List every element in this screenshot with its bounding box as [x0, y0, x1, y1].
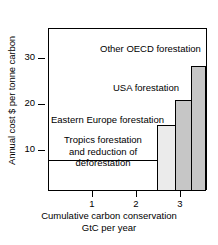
x-axis-title-line1: Cumulative carbon conservation	[0, 210, 218, 222]
bar-usa-forestation	[175, 100, 192, 191]
y-axis-ticks: 30 20 10	[0, 0, 48, 245]
x-tick-label-1: 1	[83, 198, 101, 209]
plot-area: Other OECD forestation USA forestation E…	[48, 28, 207, 190]
y-tick-mark	[38, 104, 45, 105]
y-tick-label-10: 10	[24, 143, 35, 154]
y-tick-mark	[38, 150, 45, 151]
y-tick-label-30: 30	[24, 51, 35, 62]
x-tick-label-3: 3	[171, 198, 189, 209]
x-tick-mark	[180, 190, 181, 197]
bar-eastern-europe-forestation	[157, 125, 176, 191]
annotation-usa-forestation: USA forestation	[113, 82, 179, 94]
x-tick-mark	[92, 190, 93, 197]
y-tick-mark	[38, 58, 45, 59]
x-axis-title: Cumulative carbon conservation GtC per y…	[0, 210, 218, 233]
annotation-eastern-europe-forestation: Eastern Europe forestation	[51, 114, 164, 126]
annotation-tropics-line3: deforestation	[53, 157, 153, 169]
bar-other-oecd-forestation	[191, 66, 206, 191]
y-tick-label-20: 20	[24, 97, 35, 108]
x-tick-mark	[136, 190, 137, 197]
annotation-tropics-line2: and reduction of	[53, 146, 153, 158]
annotation-tropics-line1: Tropics forestation	[53, 134, 153, 146]
x-tick-label-2: 2	[127, 198, 145, 209]
x-axis-title-line2: GtC per year	[0, 222, 218, 234]
annotation-other-oecd-forestation: Other OECD forestation	[100, 43, 201, 55]
marginal-abatement-cost-chart: Annual cost $ per tonne carbon 30 20 10 …	[0, 0, 218, 245]
